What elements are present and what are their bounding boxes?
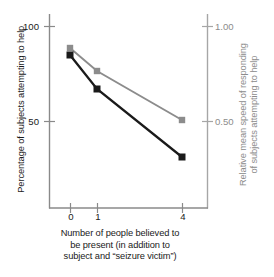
data-point-black-4: [179, 154, 186, 161]
x-axis-title-line1: Number of people believed to: [61, 228, 180, 238]
data-point-black-0: [67, 52, 74, 59]
x-axis-title: Number of people believed to be present …: [27, 228, 213, 263]
right-axis-title-line2: of subjects attempting to help: [249, 56, 259, 174]
data-point-gray-1: [94, 68, 100, 74]
x-axis-title-line3: subject and “seizure victim”): [64, 251, 177, 261]
data-point-gray-4: [179, 117, 185, 123]
x-tick-label-0: 0: [61, 211, 81, 222]
right-axis-title-line1: Relative mean speed of responding: [238, 43, 248, 186]
data-point-gray-0: [67, 45, 73, 51]
data-point-black-1: [94, 86, 101, 93]
series-line-gray: [70, 48, 182, 120]
right-axis-title: Relative mean speed of responding of sub…: [238, 17, 259, 213]
x-tick-label-4: 4: [173, 211, 193, 222]
x-axis-title-line2: be present (in addition to: [70, 240, 170, 250]
chart-figure: 100 50 1.00 0.50 0 1 4 Percentage of sub…: [0, 0, 274, 277]
left-axis-title: Percentage of subjects attempting to hel…: [16, 11, 27, 207]
x-tick-label-1: 1: [88, 211, 108, 222]
series-line-black: [70, 55, 182, 157]
